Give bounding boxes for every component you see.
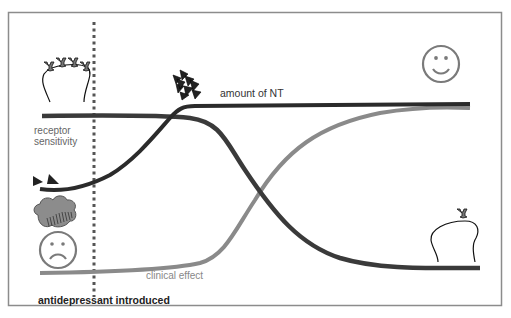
neuron-many-receptors-icon (43, 58, 90, 102)
happy-face-icon (423, 46, 459, 82)
receptor-sensitivity-label-line1: receptor (34, 125, 71, 136)
receptor-sensitivity-curve (42, 116, 480, 269)
diagram-canvas (0, 0, 511, 318)
diagram-frame (9, 13, 502, 306)
antidepressant-introduced-label: antidepressant introduced (38, 295, 170, 306)
neuron-single-receptor-icon (431, 209, 478, 262)
clinical-effect-curve (40, 107, 470, 273)
clinical-effect-label: clinical effect (146, 271, 203, 281)
receptor-sensitivity-label-line2: sensitivity (34, 136, 77, 147)
nt-cluster-icon (173, 70, 201, 100)
rain-cloud-icon (34, 196, 76, 227)
amount-nt-label: amount of NT (220, 88, 284, 99)
few-nt-triangles-icon (33, 174, 59, 186)
sad-face-icon (40, 232, 76, 268)
receptor-sensitivity-label: receptor sensitivity (34, 125, 77, 147)
